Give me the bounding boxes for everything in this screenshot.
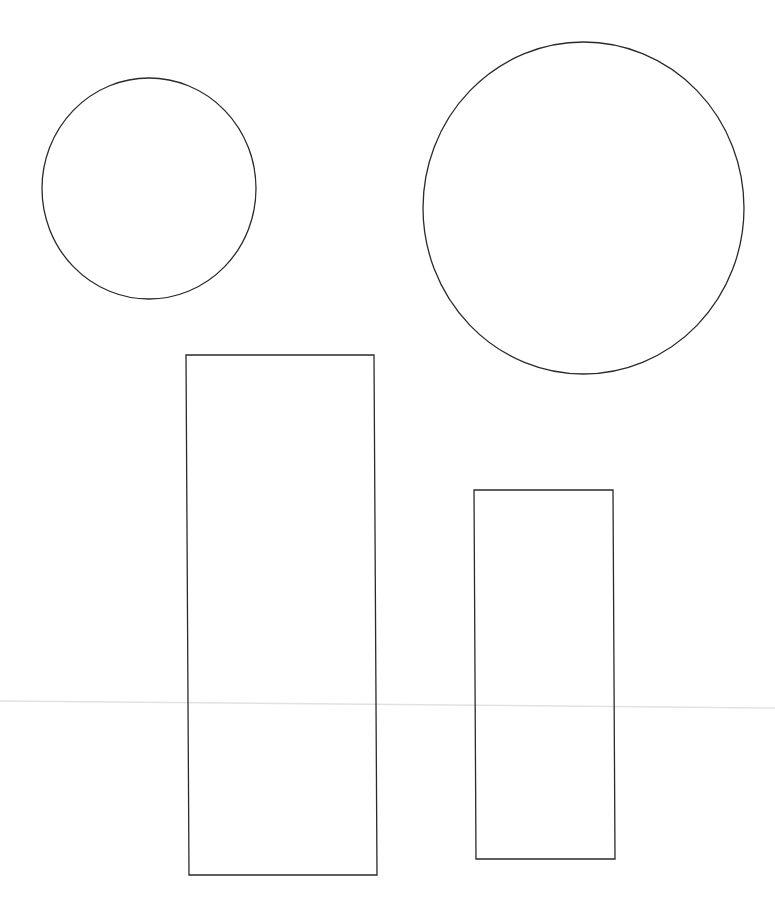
drawing-canvas bbox=[0, 0, 775, 917]
canvas-background bbox=[0, 0, 775, 917]
